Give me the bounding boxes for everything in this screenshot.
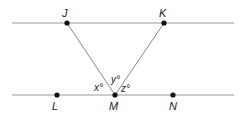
point-J (64, 20, 69, 25)
point-L (54, 92, 59, 97)
label-N: N (169, 100, 177, 112)
point-M (112, 92, 117, 97)
label-J: J (61, 7, 68, 19)
angle-x-label: x° (93, 82, 103, 93)
label-K: K (159, 7, 167, 19)
angle-z-label: z° (120, 83, 130, 94)
parallel-lines-diagram: J K L M N x° y° z° (0, 0, 245, 117)
angle-y-label: y° (110, 74, 120, 85)
point-K (161, 20, 166, 25)
label-L: L (52, 100, 58, 112)
point-N (170, 92, 175, 97)
segment-JM (67, 23, 115, 95)
label-M: M (109, 100, 119, 112)
